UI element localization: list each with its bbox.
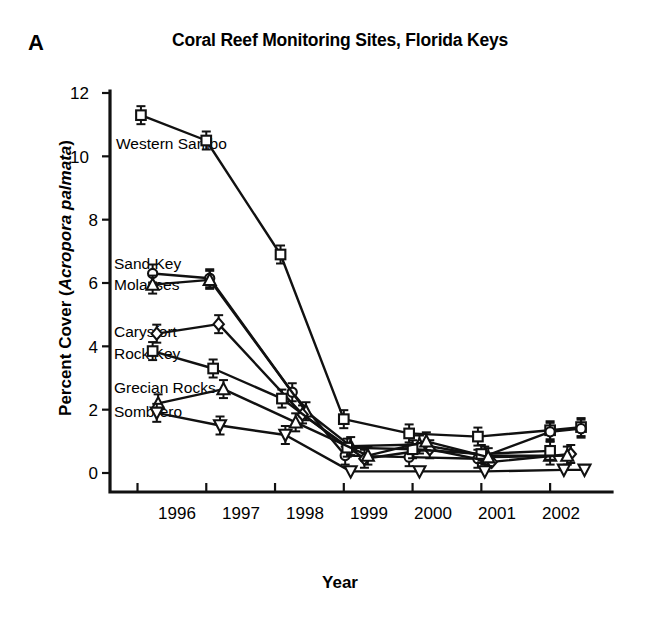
- data-point: [148, 346, 158, 356]
- series-rock-key: [148, 342, 555, 463]
- data-point: [473, 432, 483, 442]
- series-western-sambo: [136, 106, 586, 445]
- data-point: [404, 429, 414, 439]
- data-point: [152, 328, 162, 340]
- figure-panel: A Coral Reef Monitoring Sites, Florida K…: [0, 0, 650, 631]
- data-series-group: [136, 106, 590, 477]
- data-point: [208, 364, 218, 374]
- plot-area: [0, 0, 650, 631]
- data-point: [339, 414, 349, 424]
- data-point: [546, 427, 555, 436]
- data-point: [136, 110, 146, 120]
- data-point: [277, 394, 287, 404]
- data-point: [217, 383, 229, 394]
- data-point: [545, 446, 555, 456]
- data-point: [576, 424, 585, 433]
- data-point: [201, 136, 211, 146]
- data-point: [276, 250, 286, 260]
